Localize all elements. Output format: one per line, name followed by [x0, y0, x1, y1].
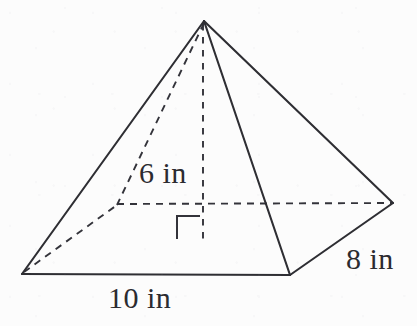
pyramid-figure: 6 in 8 in 10 in [0, 0, 417, 326]
edge-apex-to-front-right [204, 21, 290, 275]
height-label: 6 in [139, 158, 187, 188]
edge-base-front [22, 274, 290, 275]
width-label: 10 in [108, 283, 171, 313]
pyramid-drawing [0, 0, 417, 326]
depth-label: 8 in [346, 244, 394, 274]
hidden-edge-base-back-left [24, 205, 117, 272]
right-angle-marker [177, 216, 200, 239]
hidden-edge-base-back-diagonal [117, 203, 392, 204]
edge-apex-to-right [204, 21, 393, 203]
